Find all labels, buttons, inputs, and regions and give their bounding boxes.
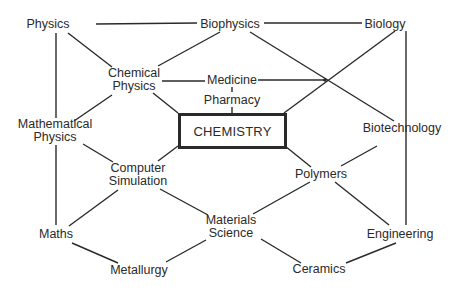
connector-line bbox=[341, 146, 377, 166]
node-label: Science bbox=[206, 227, 257, 240]
node-materials-science: MaterialsScience bbox=[206, 214, 257, 240]
node-label: Physics bbox=[18, 131, 92, 144]
node-computer-simulation: ComputerSimulation bbox=[109, 162, 167, 188]
junction-dot bbox=[323, 78, 327, 82]
node-polymers: Polymers bbox=[295, 168, 347, 181]
connector-line bbox=[68, 33, 112, 67]
node-maths: Maths bbox=[39, 228, 73, 241]
node-biotechnology: Biotechnology bbox=[363, 122, 442, 135]
connector-line bbox=[72, 243, 118, 263]
node-ceramics: Ceramics bbox=[293, 263, 346, 276]
node-pharmacy: Pharmacy bbox=[204, 94, 260, 107]
connector-line bbox=[253, 182, 310, 214]
node-label: Biotechnology bbox=[363, 122, 442, 135]
connector-line bbox=[153, 93, 178, 113]
chemistry-label: CHEMISTRY bbox=[193, 124, 271, 139]
connector-line bbox=[284, 31, 395, 113]
connector-line bbox=[96, 23, 197, 24]
node-label: Physics bbox=[26, 18, 69, 31]
node-label: Physics bbox=[108, 80, 160, 93]
node-label: Biology bbox=[365, 18, 406, 31]
node-label: Maths bbox=[39, 228, 73, 241]
node-biology: Biology bbox=[365, 18, 406, 31]
node-metallurgy: Metallurgy bbox=[110, 264, 168, 277]
connector-line bbox=[158, 146, 178, 161]
node-label: Medicine bbox=[207, 74, 257, 87]
node-medicine: Medicine bbox=[207, 74, 257, 87]
chemistry-central-box: CHEMISTRY bbox=[178, 113, 287, 149]
connector-line bbox=[285, 146, 311, 167]
connector-line bbox=[69, 190, 118, 226]
node-label: Engineering bbox=[367, 228, 434, 241]
chemistry-interdisciplinary-diagram: CHEMISTRY PhysicsBiophysicsBiologyChemic… bbox=[0, 0, 459, 292]
node-label: Pharmacy bbox=[204, 94, 260, 107]
connector-line bbox=[335, 182, 389, 225]
connector-line bbox=[250, 32, 394, 121]
connector-line bbox=[261, 239, 301, 263]
node-engineering: Engineering bbox=[367, 228, 434, 241]
node-label: Metallurgy bbox=[110, 264, 168, 277]
connector-line bbox=[346, 243, 396, 263]
node-biophysics: Biophysics bbox=[200, 18, 260, 31]
node-chemical-physics: ChemicalPhysics bbox=[108, 67, 160, 93]
node-label: Polymers bbox=[295, 168, 347, 181]
connector-line bbox=[166, 240, 206, 262]
node-mathematical-physics: MathematicalPhysics bbox=[18, 118, 92, 144]
connector-line bbox=[160, 189, 208, 215]
node-label: Simulation bbox=[109, 175, 167, 188]
node-label: Biophysics bbox=[200, 18, 260, 31]
connector-line bbox=[158, 32, 220, 66]
connector-line bbox=[83, 144, 113, 162]
node-physics: Physics bbox=[26, 18, 69, 31]
node-label: Ceramics bbox=[293, 263, 346, 276]
